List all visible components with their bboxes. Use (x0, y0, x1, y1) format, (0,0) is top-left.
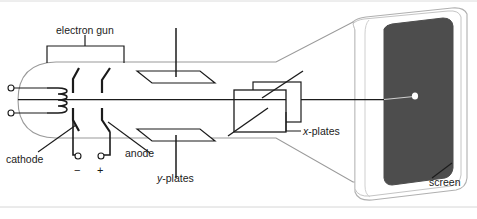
crt-diagram-figure: electron gun cathode anode y-plates x-pl… (0, 0, 477, 219)
label-electron-gun: electron gun (56, 24, 114, 36)
label-anode: anode (125, 147, 154, 159)
label-x-plates-suffix: -plates (308, 125, 340, 137)
label-negative-sign: − (74, 164, 80, 176)
electron-gun-bracket (47, 46, 124, 63)
label-screen: screen (429, 176, 461, 188)
screen-phosphor-face (384, 18, 453, 185)
label-y-plates-suffix: -plates (162, 172, 194, 184)
heater-filament-coil (47, 88, 67, 113)
label-y-plates: y-plates (156, 172, 194, 184)
cathode-terminal-lower (8, 110, 14, 116)
svg-text:x-plates: x-plates (302, 125, 340, 137)
cathode-electrode-lower (73, 108, 79, 131)
crt-diagram-svg: electron gun cathode anode y-plates x-pl… (0, 0, 477, 219)
cathode-electrode-upper (73, 68, 79, 93)
svg-text:y-plates: y-plates (156, 172, 194, 184)
label-x-plates: x-plates (302, 125, 340, 137)
negative-terminal-circle (75, 153, 81, 159)
label-positive-sign: + (97, 164, 103, 176)
anode-electrode-upper (102, 68, 110, 93)
anode-electrode-lower (102, 108, 110, 132)
beam-spot (412, 92, 418, 99)
anode-supply-lead (104, 132, 110, 155)
label-cathode: cathode (6, 153, 44, 165)
positive-terminal-circle (98, 153, 104, 159)
cathode-terminal-upper (8, 85, 14, 91)
